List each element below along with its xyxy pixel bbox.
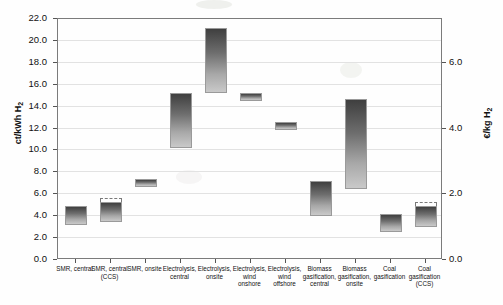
x-axis-tick	[425, 259, 426, 263]
y-axis-right-tick-label: 2.0	[449, 187, 481, 198]
chart-container: ct/kWh H2 €/kg H2 0.02.04.06.08.010.012.…	[0, 0, 503, 305]
x-axis-tick	[215, 259, 216, 263]
y-axis-right-tick-label: 6.0	[449, 56, 481, 67]
y-axis-left-tick	[53, 259, 57, 260]
x-axis-tick	[145, 259, 146, 263]
y-axis-right-tick	[442, 259, 446, 260]
x-axis-tick-label: Coalgasification(CCS)	[404, 265, 445, 288]
x-axis-tick	[285, 259, 286, 263]
y-axis-left-tick	[53, 237, 57, 238]
y-axis-left-tick-label: 6.0	[0, 187, 47, 198]
y-axis-right-tick-label: 0.0	[449, 253, 481, 264]
x-axis-tick-label-line: onsite	[334, 280, 375, 288]
y-axis-left-tick	[53, 149, 57, 150]
x-axis-tick-label-line: Coal	[404, 265, 445, 273]
y-axis-left-tick	[53, 62, 57, 63]
y-axis-left-tick-label: 12.0	[0, 122, 47, 133]
axis-overlay: 0.02.04.06.08.010.012.014.016.018.020.02…	[0, 0, 503, 305]
x-axis-tick	[75, 259, 76, 263]
y-axis-left-tick	[53, 18, 57, 19]
x-axis-tick	[180, 259, 181, 263]
x-axis-tick	[250, 259, 251, 263]
y-axis-right-tick-label: 4.0	[449, 122, 481, 133]
y-axis-right-tick	[442, 128, 446, 129]
x-axis-tick	[110, 259, 111, 263]
y-axis-left-tick-label: 18.0	[0, 56, 47, 67]
y-axis-left-tick	[53, 128, 57, 129]
x-axis-tick-label-line: gasification	[404, 273, 445, 281]
y-axis-left-tick-label: 10.0	[0, 143, 47, 154]
y-axis-left-tick-label: 2.0	[0, 231, 47, 242]
x-axis-tick	[355, 259, 356, 263]
x-axis-tick-label-line: (CCS)	[404, 280, 445, 288]
y-axis-right-tick	[442, 193, 446, 194]
y-axis-left-tick	[53, 171, 57, 172]
x-axis-tick	[320, 259, 321, 263]
y-axis-left-tick	[53, 106, 57, 107]
y-axis-left-tick-label: 16.0	[0, 78, 47, 89]
y-axis-left-tick	[53, 193, 57, 194]
y-axis-left-tick-label: 4.0	[0, 209, 47, 220]
x-axis-tick	[390, 259, 391, 263]
y-axis-left-tick	[53, 84, 57, 85]
y-axis-left-tick	[53, 40, 57, 41]
x-axis-tick-label-line: (CCS)	[89, 273, 130, 281]
y-axis-left-tick-label: 0.0	[0, 253, 47, 264]
y-axis-left-tick	[53, 215, 57, 216]
y-axis-left-tick-label: 8.0	[0, 165, 47, 176]
y-axis-left-tick-label: 20.0	[0, 34, 47, 45]
y-axis-left-tick-label: 22.0	[0, 12, 47, 23]
y-axis-right-tick	[442, 62, 446, 63]
y-axis-left-tick-label: 14.0	[0, 100, 47, 111]
